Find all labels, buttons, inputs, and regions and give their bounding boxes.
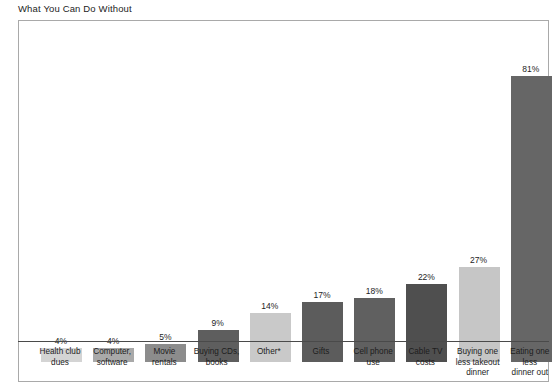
x-axis-label: Eating onelessdinner out xyxy=(503,347,557,379)
figure: What You Can Do Without 4%4%5%9%14%17%18… xyxy=(0,0,559,390)
x-axis-line xyxy=(18,341,549,342)
x-axis-label-line: Cell phone xyxy=(346,347,400,358)
bar-value-label: 17% xyxy=(296,290,348,300)
x-axis-label: Buying CDs,books xyxy=(190,347,244,368)
chart-title: What You Can Do Without xyxy=(18,3,132,14)
bar-group: 4% xyxy=(35,21,87,381)
bar-group: 9% xyxy=(192,21,244,381)
bar-group: 4% xyxy=(87,21,139,381)
plot-frame: 4%4%5%9%14%17%18%22%27%81% xyxy=(18,20,549,382)
bars-layer: 4%4%5%9%14%17%18%22%27%81% xyxy=(19,21,548,381)
x-axis-label-line: books xyxy=(190,358,244,369)
x-axis-label-line: less takeout xyxy=(451,358,505,369)
x-axis-label: Cell phoneuse xyxy=(346,347,400,368)
x-axis-label-line: use xyxy=(346,358,400,369)
x-axis-label-line: Other* xyxy=(242,347,296,358)
bar-group: 14% xyxy=(244,21,296,381)
plot-area: 4%4%5%9%14%17%18%22%27%81% xyxy=(19,21,548,381)
x-axis-label-line: Buying CDs, xyxy=(190,347,244,358)
x-axis-label-line: rentals xyxy=(137,358,191,369)
bar[interactable] xyxy=(511,76,552,362)
bar-group: 27% xyxy=(453,21,505,381)
x-axis-label-line: Eating one xyxy=(503,347,557,358)
x-axis-label-line: less xyxy=(503,358,557,369)
x-axis-label: Buying oneless takeoutdinner xyxy=(451,347,505,379)
bar-value-label: 14% xyxy=(244,301,296,311)
x-axis-label-line: Buying one xyxy=(451,347,505,358)
x-axis-label-line: dinner out xyxy=(503,368,557,379)
x-axis-label-line: Computer, xyxy=(85,347,139,358)
bar-value-label: 22% xyxy=(400,272,452,282)
bar-value-label: 9% xyxy=(192,318,244,328)
bar-group: 81% xyxy=(505,21,557,381)
x-axis-label: Other* xyxy=(242,347,296,358)
x-axis-label: Health clubdues xyxy=(33,347,87,368)
bar-group: 22% xyxy=(400,21,452,381)
bar-group: 17% xyxy=(296,21,348,381)
bar-value-label: 27% xyxy=(453,255,505,265)
x-axis-label-line: dues xyxy=(33,358,87,369)
x-axis-label-line: dinner xyxy=(451,368,505,379)
bar-value-label: 81% xyxy=(505,64,557,74)
x-axis-label: Gifts xyxy=(294,347,348,358)
bar-group: 5% xyxy=(139,21,191,381)
x-axis-label-line: software xyxy=(85,358,139,369)
x-axis-label-line: costs xyxy=(398,358,452,369)
x-axis-label-line: Gifts xyxy=(294,347,348,358)
x-axis-label: Computer,software xyxy=(85,347,139,368)
x-axis-label-line: Movie xyxy=(137,347,191,358)
x-axis-label: Movierentals xyxy=(137,347,191,368)
x-axis-label-line: Cable TV xyxy=(398,347,452,358)
x-axis-label-line: Health club xyxy=(33,347,87,358)
x-axis-tick-labels: Health clubduesComputer,softwareMovieren… xyxy=(18,347,549,390)
bar-value-label: 18% xyxy=(348,286,400,296)
bar-group: 18% xyxy=(348,21,400,381)
x-axis-label: Cable TVcosts xyxy=(398,347,452,368)
